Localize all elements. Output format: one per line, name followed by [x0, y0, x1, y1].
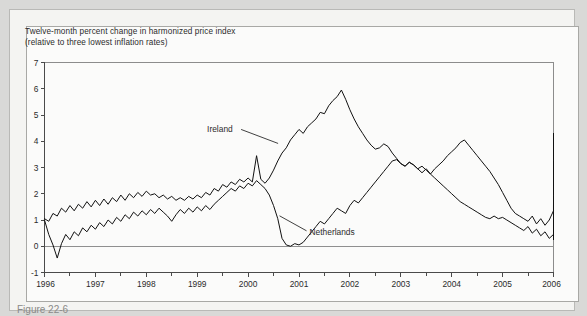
chart-svg: -101234567 19961997199819992000200120022… — [0, 0, 587, 316]
x-tick-label: 2006 — [542, 279, 561, 289]
x-tick-label: 2002 — [341, 279, 360, 289]
x-tick-label: 2001 — [290, 279, 309, 289]
y-tick-label: 6 — [34, 84, 39, 94]
leader-line-netherlands — [280, 216, 307, 231]
x-tick-label: 1996 — [36, 279, 55, 289]
y-axis-labels: -101234567 — [31, 58, 39, 278]
y-axis-ticks — [41, 63, 45, 273]
y-tick-label: 2 — [34, 189, 39, 199]
y-tick-label: 5 — [34, 110, 39, 120]
series-line-netherlands — [45, 160, 554, 258]
x-axis-labels: 1996199719981999200020012002200320042005… — [36, 279, 561, 289]
x-axis-ticks — [45, 273, 554, 278]
series-line-ireland — [45, 90, 554, 225]
x-tick-label: 2004 — [442, 279, 461, 289]
x-tick-label: 1999 — [188, 279, 207, 289]
plot-area: -101234567 19961997199819992000200120022… — [0, 0, 587, 316]
y-tick-label: -1 — [31, 268, 39, 278]
x-tick-label: 1998 — [137, 279, 156, 289]
x-tick-label: 2000 — [239, 279, 258, 289]
series-label-netherlands: Netherlands — [310, 227, 355, 237]
y-tick-label: 1 — [34, 215, 39, 225]
y-tick-label: 7 — [34, 58, 39, 68]
leader-line-ireland — [241, 129, 278, 143]
series-label-ireland: Ireland — [207, 124, 233, 134]
x-tick-label: 1997 — [86, 279, 105, 289]
data-series-group — [45, 90, 554, 258]
figure-caption-text: Figure 22-6 — [17, 305, 177, 315]
series-annotations: IrelandNetherlands — [207, 124, 355, 236]
figure-container: Twelve-month percent change in harmonize… — [0, 0, 587, 316]
y-tick-label: 0 — [34, 241, 39, 251]
x-tick-label: 2005 — [493, 279, 512, 289]
y-tick-label: 3 — [34, 163, 39, 173]
figure-caption: Figure 22-6 — [17, 305, 177, 316]
y-tick-label: 4 — [34, 136, 39, 146]
plot-frame — [45, 63, 554, 273]
x-tick-label: 2003 — [391, 279, 410, 289]
